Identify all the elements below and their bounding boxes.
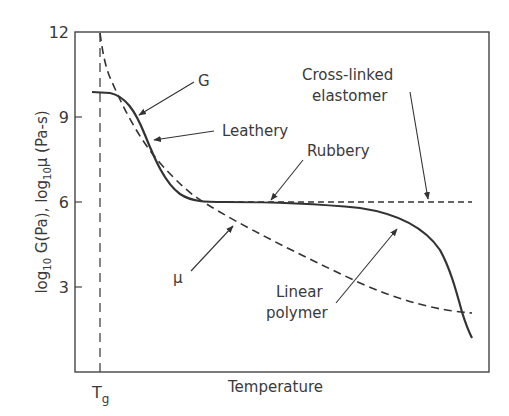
tg-label: Tg [91, 383, 109, 406]
arrow-leathery [154, 131, 214, 140]
arrow-mu [191, 226, 233, 271]
label-g: G [198, 72, 210, 90]
label-mu: μ [173, 269, 183, 287]
series-viscosity [100, 33, 472, 313]
ytick-9: 9 [59, 108, 69, 127]
arrow-linear-polymer [336, 229, 397, 303]
arrow-elastomer [410, 92, 428, 199]
ytick-12: 12 [49, 23, 69, 42]
label-linear: Linear [276, 283, 323, 301]
label-cross-linked: Cross-linked [302, 66, 393, 84]
label-rubbery: Rubbery [307, 142, 370, 160]
y-axis-ticks [75, 117, 82, 287]
arrow-g [139, 82, 194, 115]
label-leathery: Leathery [222, 122, 288, 140]
label-elastomer: elastomer [312, 87, 388, 105]
y-axis-label: log10 G(Pa), log10μ (Pa-s) [33, 110, 53, 293]
viscoelastic-chart: 12 9 6 3 log10 G(Pa), log10μ (Pa-s) Tg T… [0, 0, 509, 416]
label-polymer: polymer [266, 304, 329, 322]
x-axis-label: Temperature [227, 378, 323, 396]
ytick-6: 6 [59, 193, 69, 212]
ytick-3: 3 [59, 278, 69, 297]
arrow-rubbery [271, 160, 303, 200]
y-tick-labels: 12 9 6 3 [49, 23, 69, 297]
